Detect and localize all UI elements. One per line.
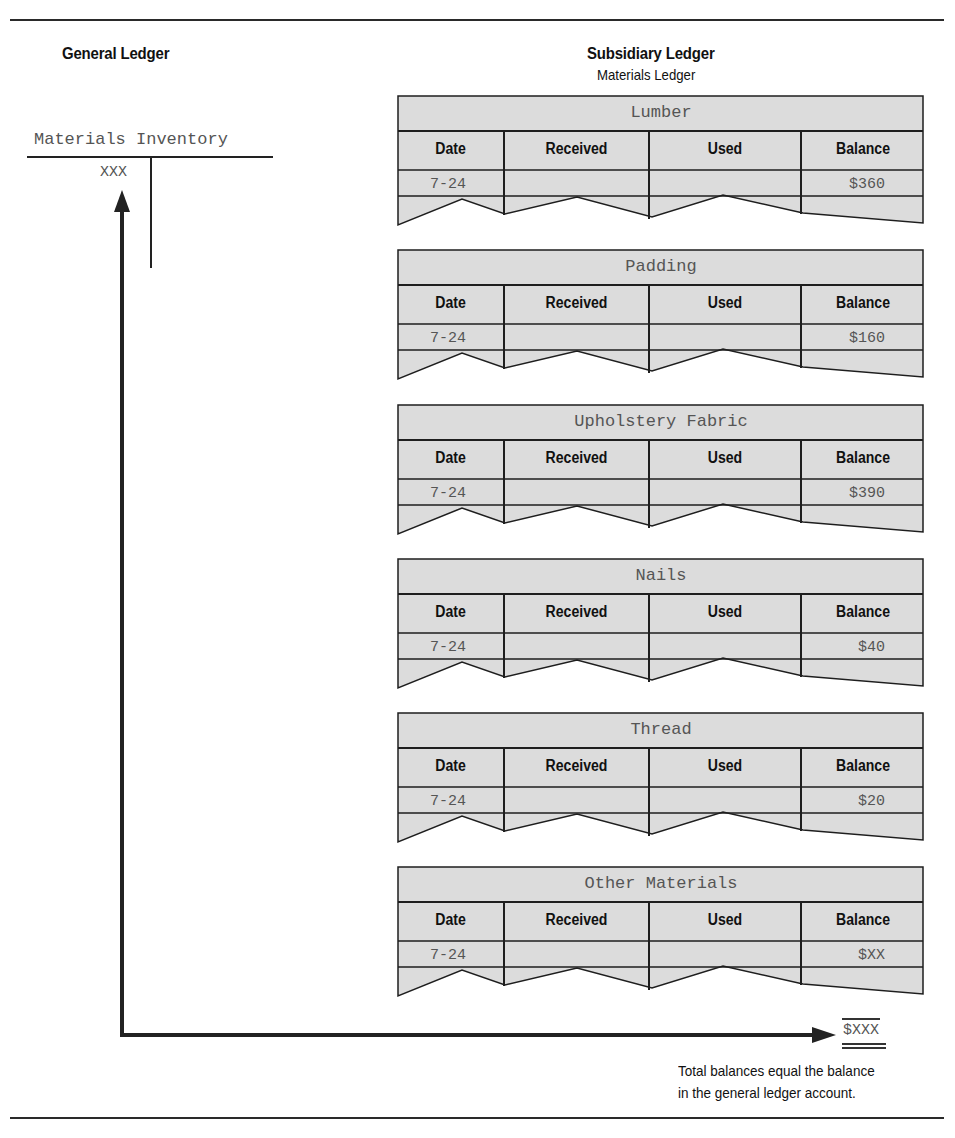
cell-date: 7-24 bbox=[430, 639, 466, 656]
ledger-card-title: Thread bbox=[397, 720, 925, 739]
cell-date: 7-24 bbox=[430, 793, 466, 810]
cell-date: 7-24 bbox=[430, 176, 466, 193]
total-note: Total balances equal the balance in the … bbox=[678, 1060, 875, 1104]
column-header-date: Date bbox=[403, 603, 497, 621]
column-header-balance: Balance bbox=[808, 603, 917, 621]
cell-balance: $20 bbox=[858, 793, 885, 810]
bottom-rule bbox=[10, 1117, 944, 1119]
top-rule bbox=[10, 19, 944, 21]
column-header-balance: Balance bbox=[808, 449, 917, 467]
ledger-card-title: Lumber bbox=[397, 103, 925, 122]
total-double-underline-1 bbox=[842, 1043, 886, 1045]
cell-balance: $360 bbox=[849, 176, 885, 193]
t-account-debit-balance: XXX bbox=[100, 164, 127, 181]
total-note-line-1: Total balances equal the balance bbox=[678, 1060, 875, 1082]
ledger-card-title: Padding bbox=[397, 257, 925, 276]
column-header-date: Date bbox=[403, 140, 497, 158]
ledger-card-thread: ThreadDateReceivedUsedBalance7-24$20 bbox=[397, 712, 925, 844]
arrow-right-icon bbox=[812, 1027, 836, 1043]
cell-date: 7-24 bbox=[430, 330, 466, 347]
column-header-used: Used bbox=[658, 911, 792, 929]
ledger-card-upholstery-fabric: Upholstery FabricDateReceivedUsedBalance… bbox=[397, 404, 925, 536]
column-header-received: Received bbox=[513, 140, 641, 158]
cell-balance: $XX bbox=[858, 947, 885, 964]
column-header-received: Received bbox=[513, 294, 641, 312]
column-header-used: Used bbox=[658, 140, 792, 158]
column-header-used: Used bbox=[658, 603, 792, 621]
subsidiary-ledger-heading: Subsidiary Ledger bbox=[587, 44, 715, 64]
cell-balance: $40 bbox=[858, 639, 885, 656]
column-header-balance: Balance bbox=[808, 757, 917, 775]
column-header-received: Received bbox=[513, 603, 641, 621]
ledger-card-lumber: LumberDateReceivedUsedBalance7-24$360 bbox=[397, 95, 925, 227]
total-balance: $XXX bbox=[842, 1018, 880, 1040]
ledger-card-padding: PaddingDateReceivedUsedBalance7-24$160 bbox=[397, 249, 925, 381]
column-header-balance: Balance bbox=[808, 294, 917, 312]
cell-balance: $160 bbox=[849, 330, 885, 347]
materials-ledger-subheading: Materials Ledger bbox=[597, 66, 695, 83]
ledger-card-other-materials: Other MaterialsDateReceivedUsedBalance7-… bbox=[397, 866, 925, 998]
column-header-date: Date bbox=[403, 757, 497, 775]
t-account-vertical-line bbox=[150, 157, 152, 268]
column-header-received: Received bbox=[513, 757, 641, 775]
t-account-title: Materials Inventory bbox=[34, 130, 228, 149]
ledger-card-title: Other Materials bbox=[397, 874, 925, 893]
column-header-used: Used bbox=[658, 294, 792, 312]
column-header-balance: Balance bbox=[808, 911, 917, 929]
column-header-received: Received bbox=[513, 911, 641, 929]
column-header-date: Date bbox=[403, 911, 497, 929]
ledger-card-title: Nails bbox=[397, 566, 925, 585]
total-double-underline-2 bbox=[842, 1047, 886, 1049]
column-header-date: Date bbox=[403, 449, 497, 467]
column-header-balance: Balance bbox=[808, 140, 917, 158]
ledger-card-nails: NailsDateReceivedUsedBalance7-24$40 bbox=[397, 558, 925, 690]
arrow-up-icon bbox=[114, 190, 130, 212]
general-ledger-heading: General Ledger bbox=[62, 44, 169, 64]
column-header-date: Date bbox=[403, 294, 497, 312]
cell-balance: $390 bbox=[849, 485, 885, 502]
column-header-received: Received bbox=[513, 449, 641, 467]
cell-date: 7-24 bbox=[430, 947, 466, 964]
column-header-used: Used bbox=[658, 449, 792, 467]
ledger-card-title: Upholstery Fabric bbox=[397, 412, 925, 431]
cell-date: 7-24 bbox=[430, 485, 466, 502]
total-note-line-2: in the general ledger account. bbox=[678, 1082, 875, 1104]
column-header-used: Used bbox=[658, 757, 792, 775]
